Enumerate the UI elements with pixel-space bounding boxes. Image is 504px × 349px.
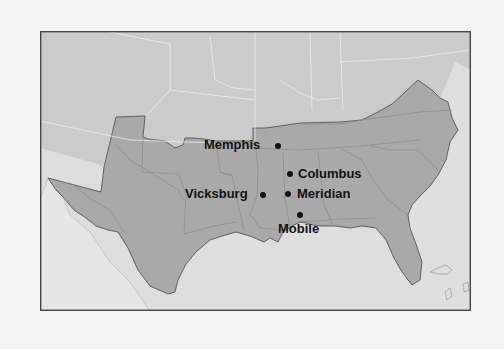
meridian-dot — [285, 191, 291, 197]
map-svg — [40, 31, 471, 311]
mobile-label: Mobile — [278, 222, 319, 236]
meridian-label: Meridian — [297, 187, 350, 201]
map-frame: Memphis Columbus Vicksburg Meridian Mobi… — [40, 31, 471, 311]
columbus-label: Columbus — [298, 167, 362, 181]
columbus-dot — [287, 171, 293, 177]
mobile-dot — [297, 212, 303, 218]
memphis-dot — [275, 143, 281, 149]
vicksburg-dot — [260, 192, 266, 198]
memphis-label: Memphis — [204, 138, 260, 152]
vicksburg-label: Vicksburg — [185, 187, 248, 201]
